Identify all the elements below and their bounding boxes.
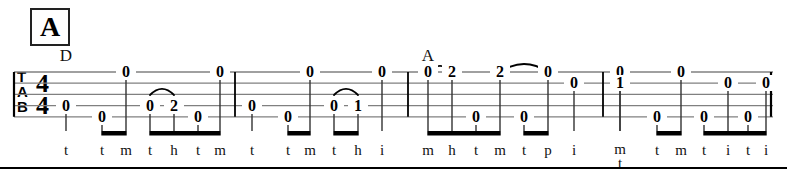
tab-note: 0 bbox=[300, 64, 320, 80]
tab-note: 0 bbox=[324, 98, 344, 114]
eighth-beam bbox=[656, 131, 681, 136]
tab-note: 0 bbox=[694, 109, 714, 125]
tab-note: 0 bbox=[372, 64, 392, 80]
tab-note: 0 bbox=[56, 98, 76, 114]
fingering-label: t bbox=[322, 142, 346, 159]
eighth-beam bbox=[287, 131, 310, 136]
fingering-label: m bbox=[416, 142, 440, 159]
tab-note: 0 bbox=[242, 98, 262, 114]
fingering-label: t bbox=[138, 142, 162, 159]
fingering-label: t bbox=[90, 142, 114, 159]
eighth-beam bbox=[523, 131, 548, 136]
fingering-label: t bbox=[645, 142, 669, 159]
tab-note: 0 bbox=[538, 64, 558, 80]
fingering-label: h bbox=[440, 142, 464, 159]
fingering-label: i bbox=[562, 142, 586, 159]
tab-note: 1 bbox=[348, 98, 368, 114]
fingering-label: t bbox=[464, 142, 488, 159]
tab-note: 0 bbox=[718, 75, 738, 91]
fingering-label: m bbox=[298, 142, 322, 159]
eighth-beam bbox=[703, 131, 766, 136]
fingering-label: m bbox=[488, 142, 512, 159]
fingering-label: h bbox=[346, 142, 370, 159]
fingering-label: t bbox=[512, 142, 536, 159]
fingering-label: t bbox=[240, 142, 264, 159]
fingering-label: i bbox=[754, 142, 778, 159]
tab-note: 2 bbox=[490, 64, 510, 80]
tab-note: 0 bbox=[92, 109, 112, 125]
tab-note: 0 bbox=[116, 64, 136, 80]
eighth-beam bbox=[333, 131, 358, 136]
tab-note: 0 bbox=[738, 109, 758, 125]
fingering-label: m bbox=[669, 142, 693, 159]
tab-note: 0 bbox=[756, 75, 776, 91]
bottom-divider bbox=[0, 167, 787, 169]
fingering-label: h bbox=[162, 142, 186, 159]
tab-note: 2 bbox=[164, 98, 184, 114]
fingering-label: m bbox=[208, 142, 232, 159]
tablature-page: A D A T A B 4 4 0t0t0m0t2h0t0m0t0t0m0t1h… bbox=[0, 0, 787, 170]
fingering-label: i bbox=[370, 142, 394, 159]
tab-note: 1 bbox=[610, 75, 630, 91]
tab-note: 0 bbox=[466, 109, 486, 125]
tab-note: 0 bbox=[671, 64, 691, 80]
fingering-label: t bbox=[692, 142, 716, 159]
tab-note: 0 bbox=[514, 109, 534, 125]
eighth-beam bbox=[427, 131, 500, 136]
fingering-label: p bbox=[536, 142, 560, 159]
fingering-label: m bbox=[114, 142, 138, 159]
tab-note: 0 bbox=[140, 98, 160, 114]
fingering-label: t bbox=[186, 142, 210, 159]
tab-note: 0 bbox=[647, 109, 667, 125]
tab-note: 0 bbox=[188, 109, 208, 125]
fingering-label: t bbox=[54, 142, 78, 159]
tab-note: 0 bbox=[278, 109, 298, 125]
tab-note: 0 bbox=[418, 64, 438, 80]
tab-note: 0 bbox=[210, 64, 230, 80]
fingering-label: t bbox=[276, 142, 300, 159]
eighth-beam bbox=[149, 131, 220, 136]
fingering-label: mt bbox=[608, 142, 632, 170]
tab-note: 0 bbox=[564, 75, 584, 91]
eighth-beam bbox=[101, 131, 126, 136]
tab-note: 2 bbox=[442, 64, 462, 80]
